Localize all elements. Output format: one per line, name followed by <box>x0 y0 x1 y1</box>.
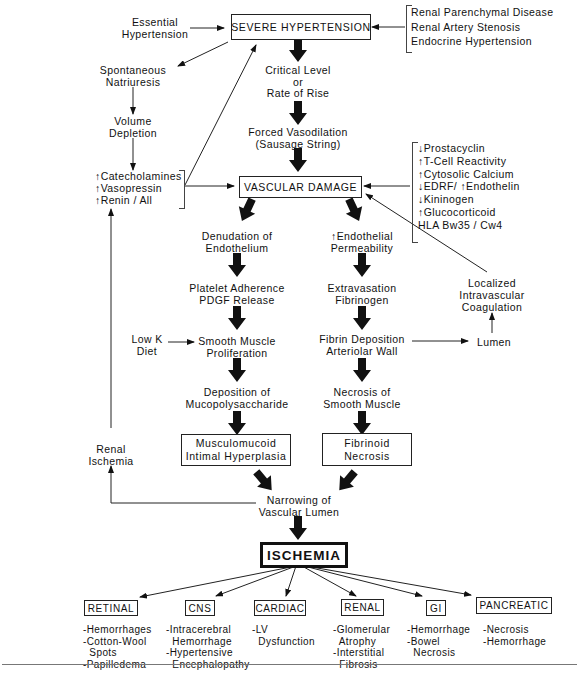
musculomucoid-box: Musculomucoid Intimal Hyperplasia <box>181 434 291 466</box>
bottom-divider <box>2 664 577 665</box>
vascular-factor-item: ↓EDRF/ ↑Endothelin <box>418 180 520 193</box>
denudation-node: Denudation of Endothelium <box>187 230 287 254</box>
effect-item: -Hemorrhages <box>83 624 152 636</box>
forced-vasodilation-node: Forced Vasodilation (Sausage String) <box>238 126 358 150</box>
organ-box-gi: GI <box>426 600 446 616</box>
effect-item: Necrosis <box>407 647 470 659</box>
organ-box-cardiac: CARDIAC <box>254 600 306 616</box>
narrowing-node: Narrowing of Vascular Lumen <box>249 494 349 518</box>
vascular-factor-item: ↑Glucocorticoid <box>418 206 520 219</box>
effect-item: -LV <box>252 624 315 636</box>
vascular-factor-item: ↑Cytosolic Calcium <box>418 168 520 181</box>
effect-item: Atrophy <box>333 636 390 648</box>
vascular-factor-item: HLA Bw35 / Cw4 <box>418 219 520 232</box>
extravasation-node: Extravasation Fibrinogen <box>312 282 412 306</box>
effect-item: -Hemorrhage <box>407 624 470 636</box>
low-k-diet-node: Low K Diet <box>122 333 172 357</box>
smooth-muscle-proliferation-node: Smooth Muscle Proliferation <box>187 335 287 359</box>
effect-item: Hemorrhage <box>166 636 250 648</box>
lumen-node: Lumen <box>472 336 516 348</box>
platelet-adherence-node: Platelet Adherence PDGF Release <box>177 282 297 306</box>
effect-item: -Glomerular <box>333 624 390 636</box>
fibrin-deposition-node: Fibrin Deposition Arteriolar Wall <box>307 333 417 357</box>
hormones-bracket <box>179 170 185 209</box>
spontaneous-natriuresis-node: Spontaneous Natriuresis <box>93 64 173 88</box>
essential-hypertension-node: Essential Hypertension <box>115 16 195 40</box>
flowchart-canvas: Essential Hypertension SEVERE HYPERTENSI… <box>0 0 579 680</box>
cardiac-effects: -LV Dysfunction <box>252 624 315 647</box>
fibrinoid-necrosis-box: Fibrinoid Necrosis <box>322 433 412 466</box>
effect-item: -Hypertensive <box>166 647 250 659</box>
organ-box-renal: RENAL <box>341 599 384 616</box>
volume-depletion-node: Volume Depletion <box>93 115 173 139</box>
severe-hypertension-box: SEVERE HYPERTENSION <box>231 14 371 40</box>
localized-coagulation-node: Localized Intravascular Coagulation <box>452 277 532 313</box>
hormone-item: ↑Renin / All <box>95 195 182 207</box>
hormones-list: ↑Catecholamines ↑Vasopressin ↑Renin / Al… <box>95 171 182 206</box>
critical-level-node: Critical Level or Rate of Rise <box>248 65 348 100</box>
vascular-factors-list: ↓Prostacyclin ↑T-Cell Reactivity ↑Cytoso… <box>418 142 520 232</box>
endothelial-permeability-node: ↑Endothelial Permeability <box>312 230 412 254</box>
pancreatic-effects: -Necrosis -Hemorrhage <box>483 624 546 647</box>
renal-ischemia-node: Renal Ischemia <box>76 443 146 467</box>
organ-box-retinal: RETINAL <box>84 600 138 616</box>
effect-item: -Hemorrhage <box>483 636 546 648</box>
effect-item: -Necrosis <box>483 624 546 636</box>
secondary-cause-item: Endocrine Hypertension <box>411 34 553 49</box>
secondary-causes-list: Renal Parenchymal Disease Renal Artery S… <box>411 5 553 49</box>
ischemia-box: ISCHEMIA <box>260 542 348 568</box>
effect-item: -Cotton-Wool <box>83 636 152 648</box>
organ-box-cns: CNS <box>185 600 215 616</box>
organ-box-pancreatic: PANCREATIC <box>476 597 552 614</box>
effect-item: Spots <box>83 647 152 659</box>
vascular-factor-item: ↓Kininogen <box>418 193 520 206</box>
gi-effects: -Hemorrhage -Bowel Necrosis <box>407 624 470 659</box>
secondary-cause-item: Renal Parenchymal Disease <box>411 5 553 20</box>
vascular-factor-item: ↑T-Cell Reactivity <box>418 155 520 168</box>
vascular-factor-item: ↓Prostacyclin <box>418 142 520 155</box>
effect-item: Dysfunction <box>252 636 315 648</box>
secondary-cause-item: Renal Artery Stenosis <box>411 20 553 35</box>
mucopolysaccharide-node: Deposition of Mucopolysaccharide <box>177 386 297 410</box>
effect-item: -Interstitial <box>333 647 390 659</box>
effect-item: -Bowel <box>407 636 470 648</box>
hormone-item: ↑Vasopressin <box>95 183 182 195</box>
necrosis-smooth-muscle-node: Necrosis of Smooth Muscle <box>312 386 412 410</box>
vascular-damage-box: VASCULAR DAMAGE <box>239 176 362 198</box>
effect-item: -Intracerebral <box>166 624 250 636</box>
